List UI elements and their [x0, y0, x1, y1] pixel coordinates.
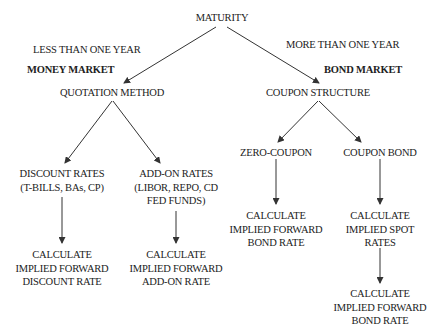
calc-line: CALCULATE [320, 287, 440, 301]
market-money-market: MONEY MARKET [27, 63, 114, 77]
discount-rates-subtitle: (T-BILLS, BAs, CP) [2, 181, 122, 195]
calc-line: CALCULATE [116, 248, 236, 262]
arrow-quotation-to-discount [65, 101, 112, 163]
condition-less-than-one-year: LESS THAN ONE YEAR [33, 43, 141, 57]
discount-rates-title: DISCOUNT RATES [2, 167, 122, 181]
node-calc-forward-bond-rate-coupon: CALCULATE IMPLIED FORWARD BOND RATE [320, 287, 440, 328]
node-calc-implied-spot-rates: CALCULATE IMPLIED SPOT RATES [320, 209, 440, 250]
arrow-coupon-structure-to-coupon-bond [319, 101, 361, 142]
calc-line: IMPLIED FORWARD [2, 262, 122, 276]
calc-line: IMPLIED FORWARD [320, 301, 440, 315]
calc-line: IMPLIED SPOT [320, 223, 440, 237]
calc-line: CALCULATE [2, 248, 122, 262]
node-coupon-structure: COUPON STRUCTURE [258, 86, 378, 100]
node-maturity: MATURITY [172, 11, 272, 25]
market-bond-market: BOND MARKET [324, 63, 402, 77]
calc-line: BOND RATE [320, 314, 440, 328]
calc-line: CALCULATE [216, 209, 336, 223]
calc-line: ADD-ON RATE [116, 275, 236, 289]
calc-line: IMPLIED FORWARD [216, 223, 336, 237]
node-calc-forward-discount-rate: CALCULATE IMPLIED FORWARD DISCOUNT RATE [2, 248, 122, 289]
calc-line: DISCOUNT RATE [2, 275, 122, 289]
arrow-maturity-to-coupon-structure [227, 27, 319, 83]
add-on-rates-subtitle: (LIBOR, REPO, CD [116, 181, 236, 195]
calc-line: CALCULATE [320, 209, 440, 223]
add-on-rates-subtitle2: FED FUNDS) [116, 194, 236, 208]
node-add-on-rates: ADD-ON RATES (LIBOR, REPO, CD FED FUNDS) [116, 167, 236, 208]
calc-line: RATES [320, 236, 440, 250]
calc-line: BOND RATE [216, 236, 336, 250]
calc-line: IMPLIED FORWARD [116, 262, 236, 276]
arrow-quotation-to-addon [113, 101, 160, 163]
condition-more-than-one-year: MORE THAN ONE YEAR [286, 38, 399, 52]
node-discount-rates: DISCOUNT RATES (T-BILLS, BAs, CP) [2, 167, 122, 194]
node-quotation-method: QUOTATION METHOD [52, 86, 172, 100]
node-calc-forward-bond-rate-zero: CALCULATE IMPLIED FORWARD BOND RATE [216, 209, 336, 250]
arrow-coupon-structure-to-zero [278, 101, 318, 142]
node-zero-coupon: ZERO-COUPON [226, 146, 326, 160]
add-on-rates-title: ADD-ON RATES [116, 167, 236, 181]
node-coupon-bond: COUPON BOND [330, 146, 430, 160]
node-calc-forward-add-on-rate: CALCULATE IMPLIED FORWARD ADD-ON RATE [116, 248, 236, 289]
